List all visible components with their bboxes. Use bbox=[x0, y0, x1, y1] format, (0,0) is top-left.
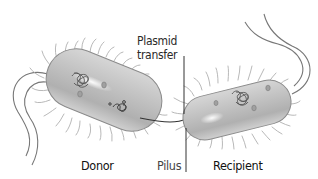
recipient-cell bbox=[172, 14, 310, 149]
plasmid-transfer-label-line2: transfer bbox=[137, 48, 177, 62]
donor-label: Donor bbox=[81, 160, 114, 173]
plasmid-transfer-label: Plasmid transfer bbox=[137, 34, 177, 62]
plasmid-transfer-label-line1: Plasmid bbox=[137, 34, 177, 48]
conjugation-diagram: Plasmid transfer Donor Pilus Recipient bbox=[0, 0, 318, 179]
recipient-label: Recipient bbox=[213, 160, 263, 173]
pilus-label: Pilus bbox=[157, 160, 181, 173]
diagram-illustration bbox=[0, 0, 318, 179]
donor-flagella-icon bbox=[13, 72, 48, 165]
